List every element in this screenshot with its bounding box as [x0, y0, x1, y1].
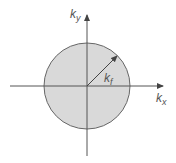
fermi-circle-diagram: ky kx kf	[0, 0, 176, 163]
y-axis-label: ky	[70, 7, 81, 23]
x-axis-label: kx	[156, 91, 167, 107]
